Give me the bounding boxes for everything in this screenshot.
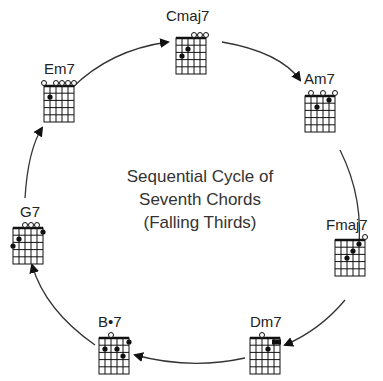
chord-label-fmaj7: Fmaj7 <box>326 216 368 233</box>
chord-label-b7: B•7 <box>98 313 122 330</box>
chord-diagram-am7 <box>305 91 338 133</box>
chord-label-g7: G7 <box>20 203 40 220</box>
chord-cycle-diagram: Cmaj7 Am7 Fmaj7 Dm7 B•7 G7 Em7 Sequentia… <box>0 0 383 381</box>
chord-label-cmaj7: Cmaj7 <box>166 7 209 24</box>
chord-label-am7: Am7 <box>304 70 335 87</box>
chord-diagram-dm7 <box>250 333 281 375</box>
chord-diagram-g7 <box>10 223 45 265</box>
title-line-1: Sequential Cycle of <box>100 165 300 188</box>
arrow-cmaj7-to-am7 <box>222 42 300 80</box>
arrow-fmaj7-to-dm7 <box>285 300 345 345</box>
chord-diagram-fmaj7 <box>335 235 368 277</box>
diagram-title: Sequential Cycle of Seventh Chords (Fall… <box>100 165 300 234</box>
chord-diagram-cmaj7 <box>176 33 209 75</box>
arrow-g7-to-em7 <box>25 128 42 198</box>
chord-label-em7: Em7 <box>44 60 75 77</box>
arrow-dm7-to-b7 <box>135 355 245 363</box>
chord-diagram-b7 <box>99 333 132 375</box>
arrow-b7-to-g7 <box>32 265 95 345</box>
chord-label-dm7: Dm7 <box>250 313 282 330</box>
chord-diagram-em7 <box>42 81 77 123</box>
arrow-em7-to-cmaj7 <box>72 42 168 88</box>
title-line-2: Seventh Chords <box>100 188 300 211</box>
title-line-3: (Falling Thirds) <box>100 211 300 234</box>
